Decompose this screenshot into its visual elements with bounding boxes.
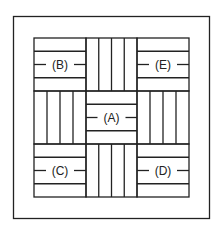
tile-label: (B) (52, 58, 68, 72)
parquet-diagram: (B)(E)(A)(C)(D) (0, 0, 220, 229)
tile-label: (C) (52, 164, 69, 178)
tile-label: (A) (104, 111, 120, 125)
tile-label: (D) (155, 164, 172, 178)
tile-label: (E) (155, 58, 171, 72)
tile-grid: (B)(E)(A)(C)(D) (34, 38, 189, 197)
